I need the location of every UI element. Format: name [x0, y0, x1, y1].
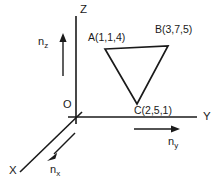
n-y-label: ny	[168, 136, 178, 147]
n-y-arrow-head	[171, 125, 180, 132]
n-z-label-sub: z	[44, 41, 48, 50]
vertex-label-b: B(3,7,5)	[155, 24, 192, 35]
n-y-label-sub: y	[174, 141, 178, 150]
coordinate-system-diagram: Z Y X O nz ny nx A(1,1,4) B(3,7,5) C(2,5…	[0, 0, 223, 186]
n-x-label: nx	[50, 164, 60, 175]
y-axis-label: Y	[203, 111, 211, 123]
vertex-label-a: A(1,1,4)	[88, 32, 125, 43]
n-x-label-sub: x	[56, 169, 60, 178]
triangle-abc-outline	[105, 46, 168, 104]
vertex-label-c: C(2,5,1)	[134, 105, 172, 116]
n-z-arrow-head	[59, 33, 66, 42]
origin-label: O	[63, 99, 72, 110]
x-axis-label: X	[9, 165, 17, 177]
n-z-label: nz	[38, 36, 48, 47]
n-x-arrow-head	[47, 153, 57, 161]
z-axis-label: Z	[80, 4, 87, 16]
